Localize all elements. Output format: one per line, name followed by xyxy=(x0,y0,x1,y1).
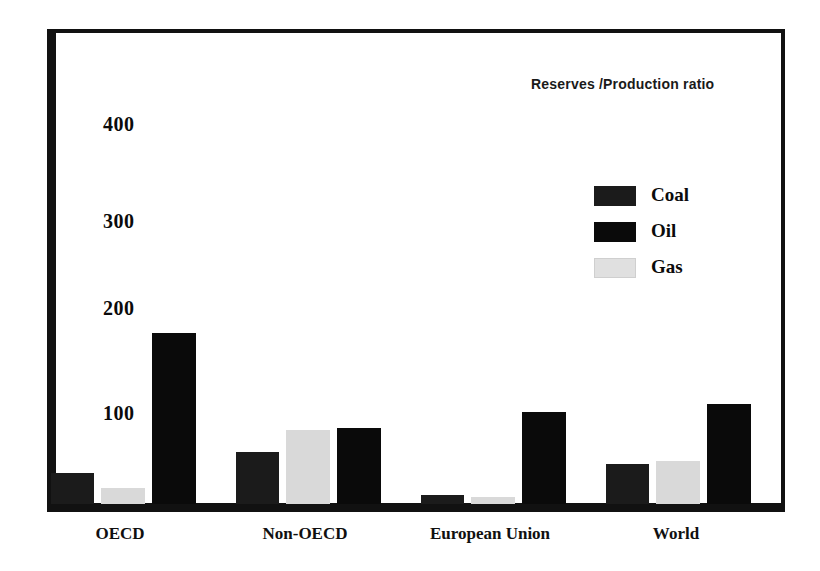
legend-swatch-coal xyxy=(594,186,636,206)
legend-label-gas: Gas xyxy=(651,256,683,278)
bar-non-oecd-oil xyxy=(337,428,381,504)
bar-oecd-gas xyxy=(101,488,145,504)
bar-world-oil xyxy=(707,404,751,504)
bar-oecd-coal xyxy=(51,473,94,504)
y-axis-line xyxy=(51,29,56,508)
chart-figure: 400 300 200 100 Reserves /Production rat… xyxy=(0,0,820,571)
plot-frame: 400 300 200 100 Reserves /Production rat… xyxy=(47,29,785,512)
x-tick-label-european-union: European Union xyxy=(430,524,550,544)
legend-label-oil: Oil xyxy=(651,220,676,242)
legend-swatch-gas xyxy=(594,258,636,278)
bar-world-coal xyxy=(606,464,649,504)
y-tick-label-300: 300 xyxy=(103,210,135,233)
x-tick-label-oecd: OECD xyxy=(95,524,144,544)
bar-european-union-coal xyxy=(421,495,464,504)
chart-title: Reserves /Production ratio xyxy=(531,76,714,92)
y-tick-label-100: 100 xyxy=(103,402,135,425)
x-tick-label-non-oecd: Non-OECD xyxy=(262,524,347,544)
bar-non-oecd-gas xyxy=(286,430,330,504)
bar-world-gas xyxy=(656,461,700,504)
y-tick-label-400: 400 xyxy=(103,113,135,136)
bar-european-union-oil xyxy=(522,412,566,504)
y-tick-label-200: 200 xyxy=(103,297,135,320)
plot-area: 400 300 200 100 Reserves /Production rat… xyxy=(51,33,781,508)
bar-oecd-oil xyxy=(152,333,196,504)
legend-swatch-oil xyxy=(594,222,636,242)
x-tick-label-world: World xyxy=(653,524,699,544)
bar-european-union-gas xyxy=(471,497,515,504)
legend-label-coal: Coal xyxy=(651,184,689,206)
bar-non-oecd-coal xyxy=(236,452,279,504)
